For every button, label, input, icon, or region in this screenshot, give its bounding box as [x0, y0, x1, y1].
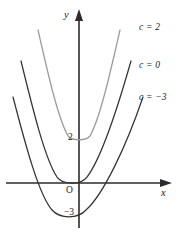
- origin-label: O: [66, 186, 73, 196]
- y-tick-label-minus-3: −3: [64, 208, 74, 218]
- y-axis-label: y: [64, 10, 69, 21]
- y-axis-arrowhead: [75, 9, 83, 21]
- x-axis-label: x: [161, 188, 166, 199]
- curve-c-minus-3: [13, 97, 143, 217]
- curve-label-c-2: c = 2: [139, 23, 160, 33]
- curve-c-0: [21, 61, 131, 183]
- curve-label-c-minus-3: c = −3: [139, 93, 167, 103]
- parabola-family-figure: c = 2 c = 0 c = −3 y x 2 O −3: [0, 0, 180, 243]
- y-tick-label-2: 2: [68, 133, 73, 143]
- curve-label-c-0: c = 0: [139, 61, 160, 71]
- plot-canvas: [0, 0, 180, 243]
- x-axis-arrowhead: [160, 179, 172, 187]
